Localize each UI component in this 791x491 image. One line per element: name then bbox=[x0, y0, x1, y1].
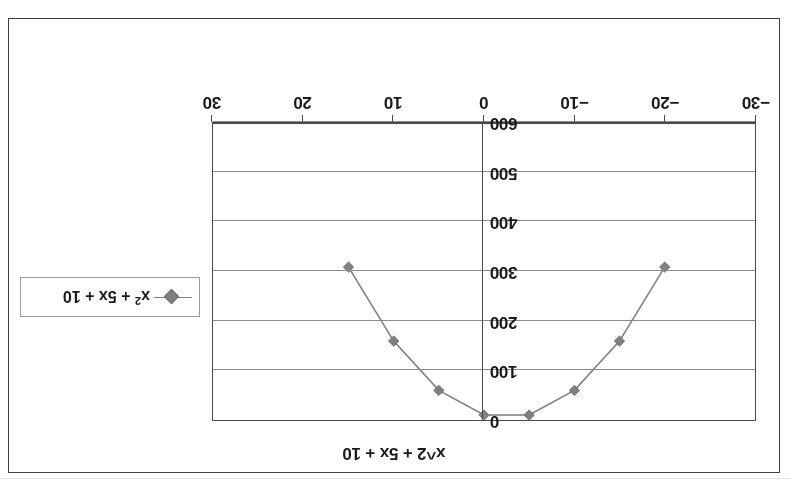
gridline bbox=[213, 171, 755, 172]
series-line bbox=[213, 124, 755, 420]
page-bottom-strip bbox=[0, 478, 791, 491]
y-tick-label: 300 bbox=[490, 262, 526, 282]
y-tick-label: 0 bbox=[490, 411, 526, 431]
data-point-marker[interactable] bbox=[434, 385, 444, 395]
gridline bbox=[213, 220, 755, 221]
x-axis-tick bbox=[483, 115, 484, 122]
x-tick-label: 20 bbox=[294, 92, 312, 112]
x-axis-tick bbox=[211, 115, 212, 122]
screenshot-page: −30−20−100102030 0100200300400500600 x2 … bbox=[0, 0, 791, 491]
gridline bbox=[213, 270, 755, 271]
x-axis bbox=[212, 122, 756, 123]
rotated-chart-content: −30−20−100102030 0100200300400500600 x2 … bbox=[9, 19, 779, 472]
gridline bbox=[213, 320, 755, 321]
chart-title: x^2 + 5x + 10 bbox=[9, 443, 779, 463]
x-tick-label: −30 bbox=[742, 92, 770, 112]
y-tick-label: 100 bbox=[490, 361, 526, 381]
legend[interactable]: x2 + 5x + 10 bbox=[20, 277, 200, 317]
y-tick-label: 200 bbox=[490, 312, 526, 332]
x-tick-label: −20 bbox=[651, 92, 679, 112]
data-point-marker[interactable] bbox=[614, 336, 624, 346]
y-tick-label: 600 bbox=[490, 113, 526, 133]
x-axis-tick bbox=[392, 115, 393, 122]
x-axis-tick bbox=[755, 115, 756, 122]
x-tick-label: −10 bbox=[561, 92, 589, 112]
plot-area bbox=[212, 123, 756, 421]
legend-marker-icon bbox=[154, 290, 192, 304]
data-point-marker[interactable] bbox=[569, 385, 579, 395]
x-tick-label: 10 bbox=[384, 92, 402, 112]
y-axis-line bbox=[482, 124, 483, 420]
x-tick-label: 0 bbox=[479, 92, 488, 112]
y-tick-label: 400 bbox=[490, 212, 526, 232]
data-point-marker[interactable] bbox=[479, 410, 489, 420]
x-axis-tick bbox=[574, 115, 575, 122]
x-axis-tick bbox=[664, 115, 665, 122]
x-axis-tick bbox=[302, 115, 303, 122]
gridline bbox=[213, 369, 755, 370]
legend-label: x2 + 5x + 10 bbox=[63, 287, 150, 307]
data-point-marker[interactable] bbox=[388, 336, 398, 346]
series-path bbox=[349, 267, 665, 415]
y-tick-label: 500 bbox=[490, 163, 526, 183]
x-tick-label: 30 bbox=[203, 92, 221, 112]
chart-frame: −30−20−100102030 0100200300400500600 x2 … bbox=[8, 18, 780, 473]
